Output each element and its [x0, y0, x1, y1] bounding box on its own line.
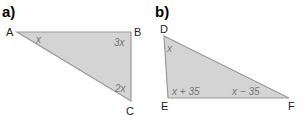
- angle-f-label: x − 35: [231, 86, 260, 97]
- angle-e-label: x + 35: [171, 86, 200, 97]
- angle-a-label: x: [35, 34, 42, 45]
- part-a-label: a): [2, 3, 15, 20]
- triangles-figure: a) A B C x 3x 2x b) D E F x x + 35 x − 3…: [0, 0, 308, 124]
- vertex-b-label: B: [134, 26, 141, 38]
- vertex-c-label: C: [126, 105, 134, 117]
- vertex-f-label: F: [288, 100, 295, 112]
- part-b-label: b): [155, 3, 169, 20]
- vertex-a-label: A: [6, 26, 14, 38]
- angle-b-label: 3x: [114, 37, 126, 48]
- angle-c-label: 2x: [114, 83, 127, 94]
- angle-d-label: x: [166, 43, 173, 54]
- vertex-d-label: D: [160, 23, 168, 35]
- vertex-e-label: E: [161, 100, 168, 112]
